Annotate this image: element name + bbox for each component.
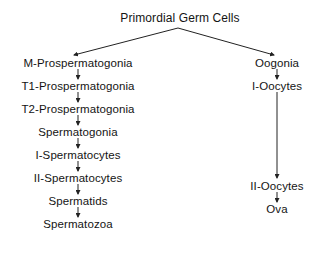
node-oogonia: Oogonia xyxy=(255,57,299,69)
node-t1-prospermatogonia: T1-Prospermatogonia xyxy=(21,80,134,92)
node-ova: Ova xyxy=(266,203,287,215)
arrow-root-to-female xyxy=(178,28,274,55)
node-primordial-germ-cells: Primordial Germ Cells xyxy=(120,12,239,24)
germ-cell-lineage-diagram: Primordial Germ Cells M-Prospermatogonia… xyxy=(0,0,316,256)
node-spermatogonia: Spermatogonia xyxy=(38,126,117,138)
node-i-spermatocytes: I-Spermatocytes xyxy=(35,149,120,161)
node-t2-prospermatogonia: T2-Prospermatogonia xyxy=(21,103,134,115)
arrow-root-to-male xyxy=(74,28,178,55)
node-i-oocytes: I-Oocytes xyxy=(252,80,302,92)
node-m-prospermatogonia: M-Prospermatogonia xyxy=(23,57,132,69)
node-ii-spermatocytes: II-Spermatocytes xyxy=(34,172,123,184)
node-ii-oocytes: II-Oocytes xyxy=(250,180,303,192)
node-spermatozoa: Spermatozoa xyxy=(43,218,113,230)
node-spermatids: Spermatids xyxy=(48,195,107,207)
